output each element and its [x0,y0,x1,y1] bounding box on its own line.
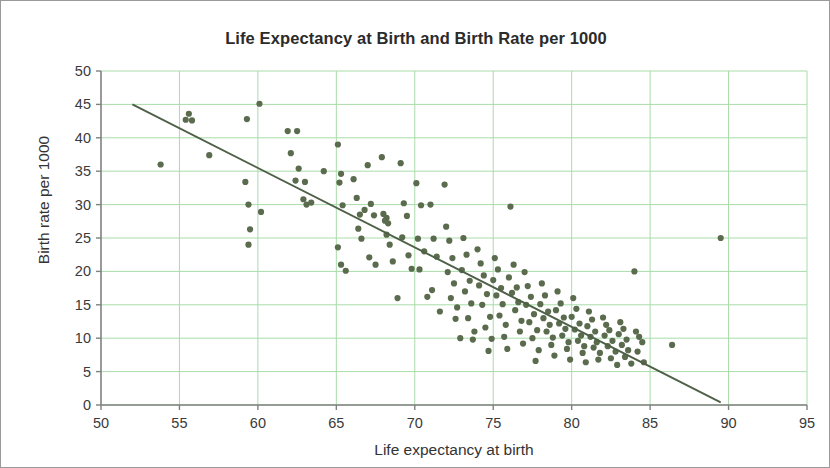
data-point [490,277,496,283]
data-point [583,359,589,365]
data-point [429,287,435,293]
data-point [379,154,385,160]
y-tick-label: 45 [75,96,91,112]
data-point [526,319,532,325]
data-point [476,282,482,288]
data-point [623,336,629,342]
data-point [308,200,314,206]
data-point [537,301,543,307]
data-point [532,358,538,364]
data-point [496,312,502,318]
data-point [565,339,571,345]
data-point [542,292,548,298]
data-point [522,269,528,275]
data-point [189,117,195,123]
data-point [548,342,554,348]
data-point [597,350,603,356]
data-point [372,262,378,268]
y-tick-label: 25 [75,230,91,246]
x-tick-label: 95 [799,415,815,431]
data-point [575,338,581,344]
data-point [336,179,342,185]
data-point [514,284,520,290]
data-point [608,355,614,361]
data-point [247,226,253,232]
data-point [584,323,590,329]
data-point [365,162,371,168]
data-point [531,311,537,317]
data-point [446,238,452,244]
data-point [628,360,634,366]
data-point [543,328,549,334]
data-point [633,328,639,334]
data-point [602,332,608,338]
data-point [343,268,349,274]
data-point [493,292,499,298]
data-point [551,352,557,358]
data-point [321,168,327,174]
scatter-plot: 0510152025303540455050556065707580859095 [1,1,830,468]
data-point [484,291,490,297]
data-point [158,161,164,167]
data-point [424,294,430,300]
data-point [452,316,458,322]
data-point [540,315,546,321]
data-point [520,340,526,346]
data-point [487,314,493,320]
data-point [512,307,518,313]
data-point [454,304,460,310]
data-point [390,258,396,264]
data-point [518,318,524,324]
data-point [465,315,471,321]
data-point [609,338,615,344]
data-point [457,335,463,341]
data-point [478,260,484,266]
data-point [614,362,620,368]
data-point [292,177,298,183]
x-tick-label: 55 [171,415,187,431]
data-point [404,213,410,219]
data-point [600,314,606,320]
data-point [592,328,598,334]
data-point [528,294,534,300]
data-point [361,207,367,213]
data-point [485,348,491,354]
data-point [245,242,251,248]
data-point [558,300,564,306]
data-point [350,176,356,182]
data-point [366,254,372,260]
data-point [492,255,498,261]
data-point [481,272,487,278]
x-tick-label: 65 [328,415,344,431]
data-point [619,342,625,348]
data-point [525,283,531,289]
data-point [482,324,488,330]
data-point [553,307,559,313]
data-point [503,322,509,328]
x-tick-label: 90 [720,415,736,431]
data-point [385,220,391,226]
data-point [443,224,449,230]
data-point [354,195,360,201]
data-point [468,300,474,306]
gridlines [101,71,807,405]
data-point [183,117,189,123]
data-point [511,262,517,268]
data-point [529,335,535,341]
data-point [467,278,473,284]
y-axis-label: Birth rate per 1000 [35,100,53,300]
data-point [620,326,626,332]
y-tick-label: 35 [75,163,91,179]
data-point [338,171,344,177]
x-tick-label: 50 [93,415,109,431]
data-point [631,268,637,274]
data-point [570,295,576,301]
data-point [244,116,250,122]
data-point [470,336,476,342]
x-tick-label: 75 [485,415,501,431]
data-point [471,328,477,334]
data-point [586,308,592,314]
data-point [338,262,344,268]
y-tick-label: 10 [75,330,91,346]
data-point [591,344,597,350]
